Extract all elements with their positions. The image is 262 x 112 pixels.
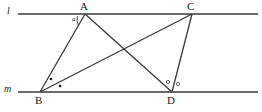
angle-dot-b-lower-icon bbox=[59, 85, 62, 88]
angle-circle-d-left-icon bbox=[166, 80, 169, 83]
line-label-l: l bbox=[7, 5, 10, 16]
geometry-figure: l m A C B D a bbox=[0, 0, 262, 112]
angle-label-a: a bbox=[72, 15, 76, 23]
angle-dot-b-upper-icon bbox=[50, 78, 53, 81]
point-label-D: D bbox=[167, 94, 175, 106]
angle-circle-d-right-icon bbox=[176, 82, 179, 85]
line-label-m: m bbox=[4, 83, 11, 94]
point-label-A: A bbox=[80, 0, 88, 12]
segment-AD bbox=[85, 14, 172, 92]
angle-arc-a-icon bbox=[77, 16, 79, 26]
point-label-C: C bbox=[187, 0, 194, 12]
point-label-B: B bbox=[35, 94, 42, 106]
segment-CD bbox=[172, 14, 192, 92]
